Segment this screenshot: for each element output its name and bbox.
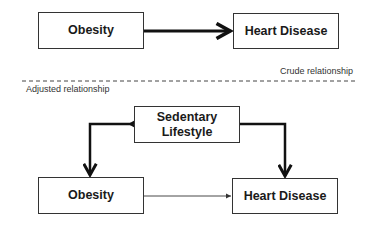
crude-relationship-label: Crude relationship: [280, 66, 353, 76]
crude-heart-disease-label: Heart Disease: [245, 24, 328, 39]
obesity-sedentary-arrow: [90, 124, 131, 175]
adjusted-relationship-label: Adjusted relationship: [26, 84, 110, 94]
adjusted-heart-disease-label: Heart Disease: [244, 189, 327, 204]
crude-heart-disease-box: Heart Disease: [233, 13, 339, 49]
crude-obesity-box: Obesity: [38, 12, 144, 49]
adjusted-heart-disease-box: Heart Disease: [232, 178, 338, 214]
sedentary-label-line1: Sedentary: [157, 110, 217, 125]
adjusted-obesity-box: Obesity: [38, 177, 144, 214]
adjusted-obesity-label: Obesity: [68, 188, 114, 203]
sedentary-lifestyle-box: Sedentary Lifestyle: [134, 106, 240, 143]
sedentary-heart-arrow: [240, 124, 285, 176]
sedentary-label-line2: Lifestyle: [162, 125, 213, 140]
crude-obesity-label: Obesity: [68, 23, 114, 38]
